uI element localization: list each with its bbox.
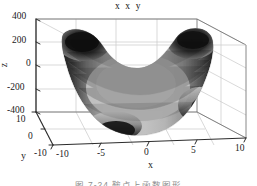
figure-plot-area: x x y [0,0,257,186]
plot-title: x x y [0,1,257,11]
y-tick-label-0: 0 [28,132,33,142]
y-tick-label-10: 10 [16,115,26,125]
z-tick-label-n200: -200 [7,83,24,93]
x-tick-label-n10: -10 [56,150,69,160]
y-axis-label: y [21,151,26,161]
figure-caption: 图 7-24 鞍点上函数图形 [0,178,257,186]
z-axis-label: z [0,63,9,67]
x-tick-label-5: 5 [191,146,196,156]
x-tick-label-10: 10 [235,144,245,154]
x-tick-label-n5: -5 [97,149,105,159]
x-axis-label: x [148,160,153,170]
z-tick-label-200: 200 [12,36,26,46]
y-tick-label-n10: -10 [34,149,47,159]
x-tick-label-0: 0 [144,148,149,158]
z-tick-label-400: 400 [12,12,26,22]
z-tick-label-0: 0 [26,59,31,69]
surface-mesh [58,25,222,141]
